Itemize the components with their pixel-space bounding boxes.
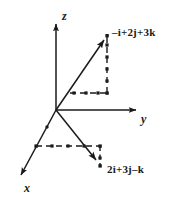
vector-diagram: z y x –i+2j+3k 2i+3j–k bbox=[0, 0, 170, 204]
x-axis-label: x bbox=[24, 182, 30, 194]
vector-b-label: 2i+3j–k bbox=[107, 164, 144, 175]
vector-b-line bbox=[56, 110, 96, 160]
y-axis-label: y bbox=[141, 113, 146, 125]
vector-b-projection bbox=[34, 144, 101, 167]
vector-a-label: –i+2j+3k bbox=[112, 27, 155, 38]
vector-a-projection bbox=[70, 34, 109, 95]
x-axis-line bbox=[21, 110, 56, 175]
z-axis-label: z bbox=[62, 10, 67, 22]
vector-a-line bbox=[56, 40, 104, 110]
